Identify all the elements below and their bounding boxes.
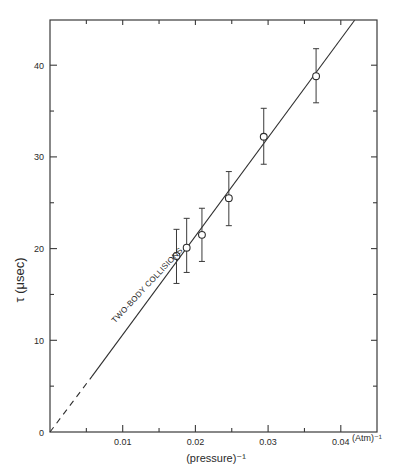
y-tick-label: 0 [39, 428, 44, 438]
y-tick-label: 30 [34, 152, 44, 162]
plot-svg: 0.010.020.030.04010203040 TWO-BODY COLLI… [0, 0, 399, 469]
error-bars [173, 49, 319, 284]
y-tick-label: 10 [34, 336, 44, 346]
x-axis-label: (pressure)⁻¹ [186, 452, 246, 464]
x-axis-unit: (Atm)⁻¹ [352, 433, 382, 443]
x-tick-label: 0.01 [114, 437, 132, 447]
chart-container: 0.010.020.030.04010203040 TWO-BODY COLLI… [0, 0, 399, 469]
y-axis-label: τ (μsec) [12, 257, 27, 302]
fit-line-dashed [50, 376, 92, 432]
data-point [313, 73, 320, 80]
x-tick-label: 0.03 [259, 437, 277, 447]
plot-frame [50, 20, 377, 432]
y-tick-label: 40 [34, 61, 44, 71]
data-point [225, 195, 232, 202]
data-point [183, 244, 190, 251]
data-points [173, 73, 319, 260]
x-tick-label: 0.04 [332, 437, 350, 447]
tick-labels: 0.010.020.030.04010203040 [34, 61, 350, 447]
y-tick-label: 20 [34, 244, 44, 254]
data-point [260, 133, 267, 140]
annotations: TWO-BODY COLLISIONS [110, 246, 185, 325]
axis-ticks [50, 20, 377, 432]
data-point [199, 231, 206, 238]
axes-frame [50, 20, 377, 432]
x-tick-label: 0.02 [187, 437, 205, 447]
annotation-two-body-collisions: TWO-BODY COLLISIONS [110, 246, 185, 325]
